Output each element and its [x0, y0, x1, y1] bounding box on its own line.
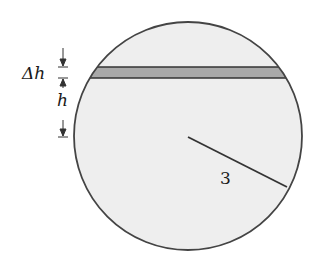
radius-label: 3 — [220, 168, 231, 188]
circle-cross-section — [74, 22, 302, 250]
slice-band — [70, 67, 310, 78]
delta-h-label: Δh — [21, 63, 45, 83]
h-label: h — [57, 90, 68, 110]
circle-slice-diagram: Δh h 3 — [0, 0, 313, 278]
